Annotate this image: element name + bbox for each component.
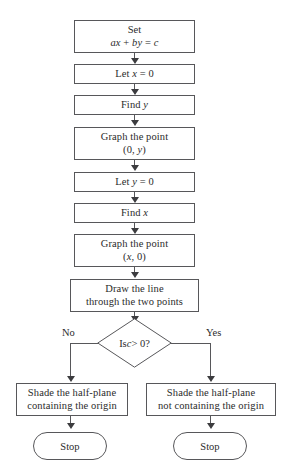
eq-const-c: c — [154, 37, 159, 48]
node-draw-line-line1: Draw the line — [105, 283, 163, 296]
let-y-post: = 0 — [137, 176, 154, 187]
let-y-pre: Let — [115, 176, 132, 187]
node-shade-right-line1: Shade the half-plane — [167, 387, 255, 400]
let-x-post: = 0 — [137, 68, 154, 79]
decision-pre: Is — [119, 338, 127, 349]
decision-post: > 0? — [131, 338, 149, 349]
node-let-x-zero-label: Let x = 0 — [115, 68, 154, 81]
graph-x0-close: , 0) — [131, 251, 145, 262]
graph-0y-open: (0, — [123, 144, 137, 155]
node-shade-not-containing-origin: Shade the half-plane not containing the … — [146, 383, 276, 416]
node-shade-left-line2: containing the origin — [27, 400, 117, 413]
find-y-var: y — [143, 99, 148, 110]
node-draw-line-line2: through the two points — [86, 296, 183, 309]
connector-no-horizontal — [70, 343, 98, 344]
node-graph-point-0y: Graph the point (0, y) — [74, 127, 195, 160]
flowchart-canvas: Set ax + by = c Let x = 0 Find y Graph t… — [0, 0, 294, 473]
node-stop-right: Stop — [173, 432, 247, 460]
find-x-var: x — [143, 207, 148, 218]
arrowhead-graph-x0-to-draw-line — [131, 272, 139, 278]
node-find-x: Find x — [74, 203, 195, 223]
stop-right-label: Stop — [200, 441, 219, 452]
node-set-equation: ax + by = c — [111, 37, 159, 50]
arrowhead-shade-left-to-stop — [67, 423, 75, 429]
node-graph-point-x0: Graph the point (x, 0) — [74, 234, 195, 267]
node-let-y-zero-label: Let y = 0 — [115, 176, 154, 189]
stop-left-label: Stop — [60, 441, 79, 452]
connector-yes-horizontal — [171, 343, 211, 344]
node-draw-line: Draw the line through the two points — [70, 279, 199, 312]
connector-no-vertical — [70, 343, 71, 377]
arrowhead-shade-right-to-stop — [207, 423, 215, 429]
node-shade-left-line1: Shade the half-plane — [28, 387, 116, 400]
node-stop-left: Stop — [33, 432, 107, 460]
let-x-pre: Let — [115, 68, 132, 79]
node-shade-containing-origin: Shade the half-plane containing the orig… — [16, 383, 128, 416]
find-y-pre: Find — [121, 99, 143, 110]
node-let-y-zero: Let y = 0 — [74, 172, 195, 192]
arrowhead-graph-0y-to-let-y — [131, 165, 139, 171]
node-graph-x0-line1: Graph the point — [101, 238, 168, 251]
node-set: Set ax + by = c — [74, 20, 195, 53]
node-find-x-label: Find x — [121, 207, 148, 220]
graph-0y-close: ) — [142, 144, 146, 155]
connector-yes-vertical — [210, 343, 211, 377]
node-find-y-label: Find y — [121, 99, 148, 112]
decision-label: Is c > 0? — [97, 318, 172, 368]
arrowhead-no-branch — [67, 376, 75, 382]
arrowhead-yes-branch — [207, 376, 215, 382]
node-shade-right-line2: not containing the origin — [158, 400, 264, 413]
find-x-pre: Find — [121, 207, 143, 218]
node-find-y: Find y — [74, 95, 195, 115]
node-let-x-zero: Let x = 0 — [74, 64, 195, 84]
eq-plus: + — [121, 37, 132, 48]
branch-label-yes: Yes — [206, 327, 221, 338]
node-set-line1: Set — [128, 24, 142, 37]
node-graph-0y-line1: Graph the point — [101, 131, 168, 144]
node-graph-0y-line2: (0, y) — [123, 144, 146, 157]
arrowhead-find-y-to-graph-0y — [131, 120, 139, 126]
node-graph-x0-line2: (x, 0) — [123, 251, 146, 264]
branch-label-no: No — [62, 327, 75, 338]
node-decision-c-positive: Is c > 0? — [97, 318, 172, 368]
eq-equals: = — [142, 37, 153, 48]
